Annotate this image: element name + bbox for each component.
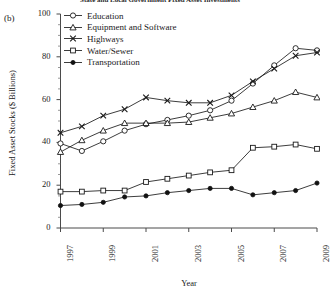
marker-triangle	[293, 89, 299, 95]
marker-square	[250, 145, 255, 150]
legend-label: Water/Sewer	[87, 46, 133, 56]
x-tick-label: 2009	[321, 245, 331, 262]
x-tick-label: 2005	[236, 245, 246, 262]
marker-circle	[293, 46, 298, 51]
legend-label: Highways	[87, 34, 124, 44]
x-tick-label: 2001	[150, 245, 160, 262]
marker-filled-circle	[58, 203, 62, 207]
marker-x	[229, 93, 235, 99]
marker-filled-circle	[165, 191, 169, 195]
marker-filled-circle	[315, 181, 319, 185]
marker-square	[144, 180, 149, 185]
marker-filled-circle	[80, 202, 84, 206]
legend-item-highways[interactable]: Highways	[63, 33, 176, 45]
marker-x	[100, 113, 106, 119]
marker-x	[79, 124, 85, 130]
y-tick-label: 40	[25, 136, 51, 146]
series-line	[61, 183, 318, 205]
marker-filled-circle	[187, 188, 191, 192]
legend-label: Equipment and Software	[87, 22, 176, 32]
marker-filled-circle	[71, 60, 75, 64]
marker-square	[79, 189, 84, 194]
marker-circle	[70, 13, 75, 18]
x-tick-label: 1997	[65, 245, 75, 262]
legend-item-education[interactable]: Education	[63, 10, 176, 22]
figure-title: State and Local Government Fixed Asset I…	[0, 0, 320, 3]
panel-label: (b)	[4, 13, 15, 23]
marker-x	[122, 106, 128, 112]
legend-circle-icon	[63, 10, 83, 21]
marker-filled-circle	[294, 188, 298, 192]
marker-filled-circle	[123, 195, 127, 199]
marker-square	[101, 188, 106, 193]
series-water-sewer	[58, 142, 319, 194]
x-tick-label: 2003	[193, 245, 203, 262]
series-transportation	[58, 181, 319, 208]
marker-circle	[229, 98, 234, 103]
y-axis-title: Fixed Asset Stocks ($ Billions)	[7, 33, 17, 213]
y-tick-label: 20	[25, 179, 51, 189]
marker-square	[315, 146, 320, 151]
legend-item-water-sewer[interactable]: Water/Sewer	[63, 45, 176, 57]
marker-square	[293, 142, 298, 147]
marker-square	[229, 168, 234, 173]
legend-filled-circle-icon	[63, 57, 83, 68]
marker-circle	[79, 148, 84, 153]
legend-square-icon	[63, 45, 83, 56]
x-axis-title: Year	[60, 278, 318, 288]
legend-label: Transportation	[87, 57, 140, 67]
marker-filled-circle	[272, 191, 276, 195]
x-tick-label: 1999	[107, 245, 117, 262]
marker-triangle	[79, 137, 85, 143]
marker-square	[186, 173, 191, 178]
legend-item-transportation[interactable]: Transportation	[63, 56, 176, 68]
legend-x-icon	[63, 33, 83, 44]
marker-filled-circle	[229, 186, 233, 190]
chart-legend: EducationEquipment and SoftwareHighwaysW…	[63, 10, 176, 68]
marker-filled-circle	[208, 186, 212, 190]
y-tick-label: 60	[25, 94, 51, 104]
marker-circle	[186, 113, 191, 118]
marker-filled-circle	[251, 193, 255, 197]
series-line	[61, 145, 318, 192]
marker-circle	[58, 141, 63, 146]
marker-circle	[101, 139, 106, 144]
legend-triangle-icon	[63, 22, 83, 33]
marker-square	[58, 189, 63, 194]
y-tick-label: 0	[25, 222, 51, 232]
marker-square	[272, 144, 277, 149]
x-tick-label: 2007	[278, 245, 288, 262]
marker-filled-circle	[144, 194, 148, 198]
marker-square	[165, 176, 170, 181]
marker-square	[122, 188, 127, 193]
marker-square	[71, 48, 76, 53]
legend-label: Education	[87, 11, 124, 21]
legend-item-equipment-and-software[interactable]: Equipment and Software	[63, 22, 176, 34]
marker-circle	[122, 128, 127, 133]
marker-triangle	[271, 98, 277, 104]
marker-triangle	[57, 149, 63, 155]
marker-filled-circle	[101, 200, 105, 204]
marker-square	[208, 170, 213, 175]
y-tick-label: 80	[25, 51, 51, 61]
marker-circle	[208, 108, 213, 113]
y-tick-label: 100	[25, 8, 51, 18]
